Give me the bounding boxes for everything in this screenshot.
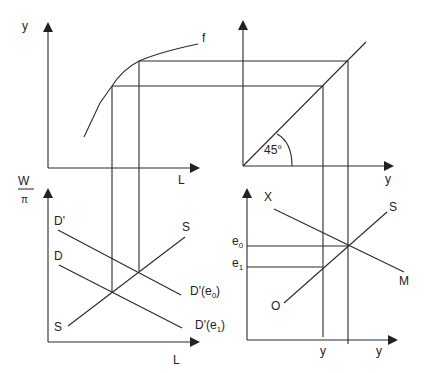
label-m: M bbox=[399, 274, 409, 288]
label-s-right: S bbox=[389, 200, 397, 214]
four-quadrant-diagram: y L f y 45° W π D' D S S L D'(e0) D'(e1)… bbox=[0, 0, 426, 373]
label-y-topright: y bbox=[385, 172, 391, 186]
label-pi: π bbox=[21, 194, 28, 205]
label-y-axis-br: y bbox=[376, 344, 382, 358]
label-45: 45° bbox=[264, 143, 282, 157]
production-curve-f bbox=[84, 44, 198, 137]
label-l-topleft: L bbox=[178, 173, 185, 187]
labor-market-panel bbox=[48, 190, 198, 342]
label-d-e0: D'(e0) bbox=[190, 284, 220, 300]
production-function-panel bbox=[48, 24, 198, 168]
o-s-curve bbox=[284, 212, 387, 303]
label-x: X bbox=[264, 190, 272, 204]
label-y-topleft: y bbox=[22, 19, 28, 33]
label-w: W bbox=[18, 174, 30, 188]
label-e0: e0 bbox=[232, 234, 244, 250]
demand-curve-e0 bbox=[58, 230, 181, 295]
x-m-curve bbox=[274, 209, 404, 272]
label-s-bottom: S bbox=[54, 320, 62, 334]
label-d: D bbox=[54, 249, 63, 263]
label-e1: e1 bbox=[232, 256, 244, 272]
label-y-tick: y bbox=[320, 344, 326, 358]
supply-curve bbox=[68, 237, 185, 326]
label-s-top: S bbox=[182, 220, 190, 234]
label-d-e1: D'(e1) bbox=[195, 318, 225, 334]
label-o: O bbox=[271, 299, 280, 313]
label-f: f bbox=[202, 31, 206, 45]
label-l-bottom: L bbox=[173, 353, 180, 367]
projection-lines bbox=[112, 61, 348, 344]
label-d-prime: D' bbox=[54, 214, 65, 228]
exchange-market-panel bbox=[247, 190, 404, 340]
